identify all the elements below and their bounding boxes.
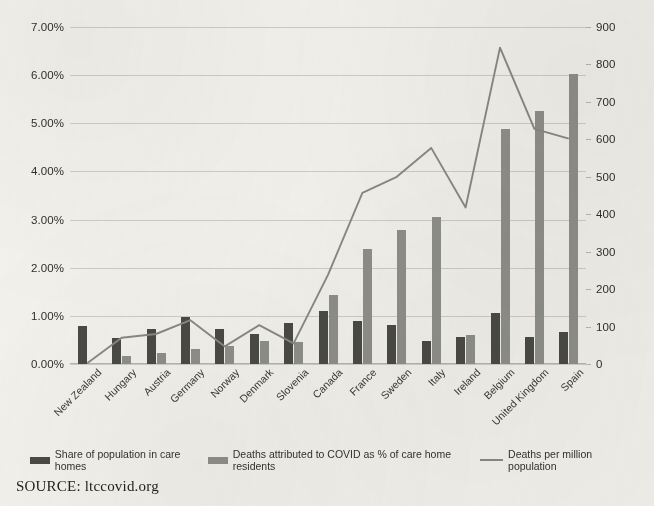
line-series-path	[87, 48, 569, 364]
y-axis-right-tick-mark	[586, 289, 591, 290]
y-axis-right-tick-label: 400	[596, 208, 644, 220]
line-series-layer	[70, 27, 586, 364]
source-note: SOURCE: ltccovid.org	[16, 478, 159, 495]
y-axis-left-tick-label: 4.00%	[8, 165, 64, 177]
y-axis-right-tick-mark	[586, 252, 591, 253]
line-swatch-icon	[480, 459, 503, 461]
y-axis-right-tick-mark	[586, 177, 591, 178]
legend-label: Share of population in care homes	[55, 448, 199, 472]
chart-container: 0.00%1.00%2.00%3.00%4.00%5.00%6.00%7.00%…	[0, 0, 654, 506]
legend-label: Deaths per million population	[508, 448, 630, 472]
gridline	[70, 364, 586, 365]
y-axis-right-tick-label: 900	[596, 21, 644, 33]
y-axis-right-tick-label: 100	[596, 321, 644, 333]
legend-item[interactable]: Deaths per million population	[480, 448, 630, 472]
y-axis-left-tick-label: 2.00%	[8, 262, 64, 274]
y-axis-right-tick-label: 0	[596, 358, 644, 370]
legend-item[interactable]: Deaths attributed to COVID as % of care …	[208, 448, 471, 472]
y-axis-right-tick-mark	[586, 139, 591, 140]
y-axis-left-tick-label: 5.00%	[8, 117, 64, 129]
y-axis-right-tick-label: 800	[596, 58, 644, 70]
y-axis-right-tick-mark	[586, 327, 591, 328]
y-axis-right-tick-label: 700	[596, 96, 644, 108]
y-axis-right-tick-label: 500	[596, 171, 644, 183]
y-axis-left-tick-label: 1.00%	[8, 310, 64, 322]
y-axis-right-tick-label: 200	[596, 283, 644, 295]
y-axis-right-tick-label: 300	[596, 246, 644, 258]
chart-legend: Share of population in care homesDeaths …	[30, 452, 630, 468]
y-axis-right-tick-label: 600	[596, 133, 644, 145]
y-axis-right-tick-mark	[586, 102, 591, 103]
y-axis-right-tick-mark	[586, 214, 591, 215]
legend-item[interactable]: Share of population in care homes	[30, 448, 199, 472]
y-axis-left-tick-label: 3.00%	[8, 214, 64, 226]
plot-area	[70, 27, 586, 364]
y-axis-left-tick-label: 0.00%	[8, 358, 64, 370]
y-axis-left-tick-label: 7.00%	[8, 21, 64, 33]
y-axis-right-tick-mark	[586, 64, 591, 65]
y-axis-right-tick-mark	[586, 27, 591, 28]
y-axis-right-tick-mark	[586, 364, 591, 365]
y-axis-left-tick-label: 6.00%	[8, 69, 64, 81]
light-bar-swatch-icon	[208, 457, 228, 464]
dark-bar-swatch-icon	[30, 457, 50, 464]
legend-label: Deaths attributed to COVID as % of care …	[233, 448, 471, 472]
